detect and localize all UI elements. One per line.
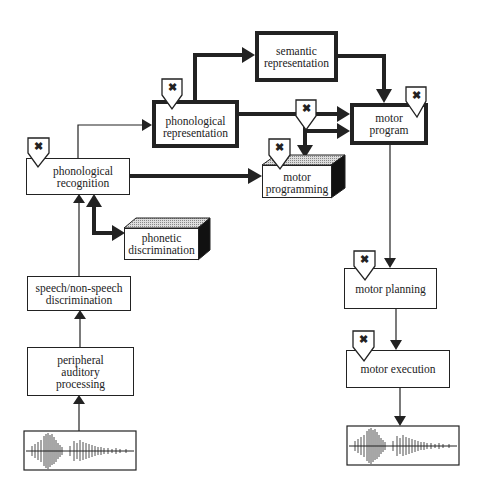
phonological-recognition-box[interactable]: phonological recognition <box>26 158 130 195</box>
peripheral-auditory-processing-label: peripheral auditory processing <box>56 354 105 390</box>
motor-planning-label: motor planning <box>355 283 426 295</box>
motor-execution-box[interactable]: motor execution <box>346 350 450 388</box>
input-speech-waveform <box>24 431 136 470</box>
motor-program-box[interactable]: motor program <box>350 103 428 145</box>
phonological-representation-box[interactable]: phonological representation <box>152 100 239 148</box>
phonological-recognition-label: phonological recognition <box>53 165 113 189</box>
phonetic-discrimination-box[interactable]: phonetic discrimination <box>124 228 199 260</box>
diagram-canvas <box>0 0 479 495</box>
speech-nonspeech-discrimination-label: speech/non-speech discrimination <box>36 282 123 306</box>
phonetic-discrimination-label: phonetic discrimination <box>128 232 194 256</box>
output-speech-waveform <box>347 426 459 465</box>
motor-programming-label: motor programming <box>266 171 329 195</box>
phonological-representation-label: phonological representation <box>163 115 228 139</box>
peripheral-auditory-processing-box[interactable]: peripheral auditory processing <box>27 347 134 396</box>
semantic-representation-label: semantic representation <box>264 45 329 69</box>
motor-programming-box[interactable]: motor programming <box>262 165 332 198</box>
motor-planning-box[interactable]: motor planning <box>344 268 437 309</box>
motor-program-label: motor program <box>370 112 409 136</box>
semantic-representation-box[interactable]: semantic representation <box>255 31 338 82</box>
speech-nonspeech-discrimination-box[interactable]: speech/non-speech discrimination <box>27 276 131 311</box>
motor-execution-label: motor execution <box>360 363 435 375</box>
